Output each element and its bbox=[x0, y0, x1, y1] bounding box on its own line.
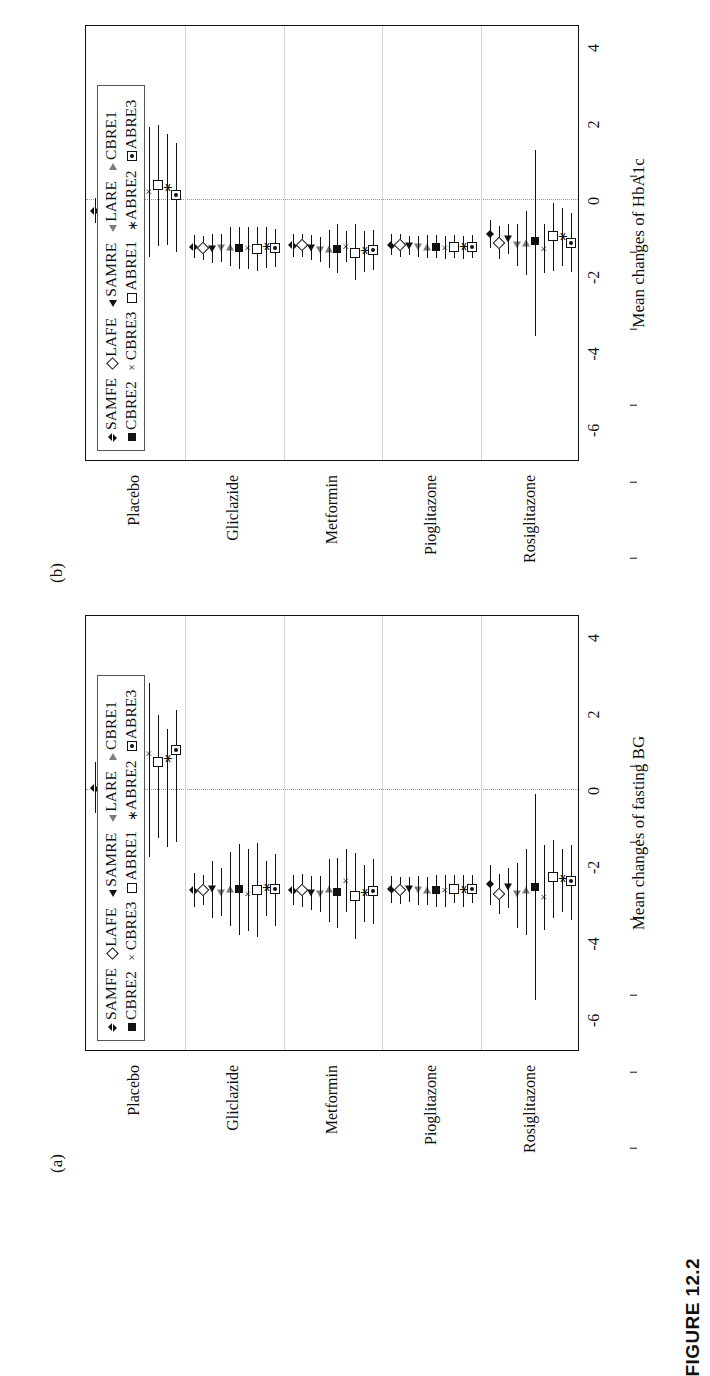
estimate-marker bbox=[208, 886, 216, 893]
axis-tick bbox=[630, 558, 637, 559]
estimate-marker: × bbox=[540, 244, 549, 253]
asterisk-icon: ∗ bbox=[128, 222, 137, 231]
axis-title: Mean changes of fasting BG bbox=[629, 615, 649, 1051]
axis-tick bbox=[630, 481, 637, 482]
value-axis: -6-4-2024 bbox=[585, 615, 607, 1051]
estimate-marker bbox=[396, 886, 405, 895]
estimate-marker bbox=[198, 243, 207, 252]
open-triangle-left-icon bbox=[316, 890, 324, 897]
estimate-marker bbox=[566, 876, 576, 886]
panel-b: (b)×∗×∗×∗×∗×∗SAMFELAFESAMRELARECBRE1CBRE… bbox=[45, 0, 665, 589]
legend-marker: ∗ bbox=[122, 220, 140, 234]
legend-label: SAMRE bbox=[102, 243, 120, 297]
category-label: Pioglitazone bbox=[422, 475, 440, 589]
open-triangle-right-icon bbox=[423, 887, 431, 894]
estimate-marker bbox=[414, 887, 422, 894]
filled-diamond-icon bbox=[383, 885, 391, 893]
legend-label: LAFE bbox=[102, 318, 120, 357]
estimate-marker bbox=[423, 887, 431, 894]
square-dot-icon bbox=[270, 243, 280, 253]
confidence-interval-whisker bbox=[176, 710, 177, 842]
category-label: Metformin bbox=[323, 475, 341, 589]
open-triangle-left-icon bbox=[414, 243, 422, 250]
axis-tick-label: 0 bbox=[585, 787, 603, 795]
value-axis: -6-4-2024 bbox=[585, 25, 607, 461]
estimate-marker bbox=[414, 243, 422, 250]
open-triangle-left-icon bbox=[109, 815, 117, 822]
open-triangle-right-icon bbox=[226, 885, 234, 892]
estimate-marker bbox=[325, 886, 333, 893]
open-triangle-right-icon bbox=[423, 243, 431, 250]
square-dot-icon bbox=[127, 151, 137, 161]
category-label: Placebo bbox=[125, 1065, 143, 1179]
legend-row: CBRE2×CBRE3ABRE1∗ABRE2ABRE3 bbox=[121, 93, 141, 444]
legend-marker bbox=[102, 1020, 120, 1034]
axis-tick-label: -2 bbox=[585, 861, 603, 874]
estimate-marker bbox=[467, 884, 477, 894]
filled-triangle-left-icon bbox=[109, 300, 117, 307]
estimate-marker bbox=[495, 889, 504, 898]
legend: SAMFELAFESAMRELARECBRE1CBRE2×CBRE3ABRE1∗… bbox=[97, 675, 145, 1041]
legend-label: ABRE3 bbox=[122, 100, 140, 150]
filled-diamond-icon bbox=[284, 886, 292, 894]
estimate-marker bbox=[171, 745, 181, 755]
figure-caption: FIGURE 12.2 bbox=[682, 1258, 704, 1376]
legend-marker bbox=[102, 887, 120, 901]
axis-tick-label: 2 bbox=[585, 120, 603, 128]
filled-diamond-icon bbox=[284, 241, 292, 249]
axis-tick bbox=[630, 1071, 637, 1072]
axis-tick-label: 0 bbox=[585, 197, 603, 205]
estimate-marker: × bbox=[342, 876, 351, 885]
asterisk-icon: ∗ bbox=[128, 812, 137, 821]
estimate-marker bbox=[198, 886, 207, 895]
legend-label: CBRE3 bbox=[122, 902, 140, 951]
legend-label: ABRE2 bbox=[122, 170, 140, 220]
estimate-marker bbox=[513, 242, 521, 249]
filled-diamond-icon bbox=[86, 784, 94, 792]
legend-row: CBRE2×CBRE3ABRE1∗ABRE2ABRE3 bbox=[121, 683, 141, 1034]
legend-marker bbox=[102, 750, 120, 764]
legend-label: CBRE3 bbox=[122, 312, 140, 361]
open-triangle-right-icon bbox=[522, 239, 530, 246]
category-label: Pioglitazone bbox=[422, 1065, 440, 1179]
filled-diamond-icon bbox=[383, 241, 391, 249]
panel-tag: (b) bbox=[47, 563, 67, 583]
legend-label: ABRE1 bbox=[122, 241, 140, 291]
filled-triangle-left-icon bbox=[504, 235, 512, 242]
estimate-marker bbox=[307, 890, 315, 897]
legend-label: SAMRE bbox=[102, 833, 120, 887]
category-separator bbox=[481, 616, 482, 1050]
category-axis: PlaceboGliclazideMetforminPioglitazoneRo… bbox=[85, 461, 579, 589]
open-triangle-right-icon bbox=[325, 245, 333, 252]
estimate-marker bbox=[566, 238, 576, 248]
legend-marker bbox=[102, 430, 120, 444]
filled-triangle-left-icon bbox=[109, 890, 117, 897]
open-triangle-left-icon bbox=[316, 246, 324, 253]
open-triangle-right-icon bbox=[226, 243, 234, 250]
estimate-marker bbox=[217, 890, 225, 897]
legend-marker bbox=[102, 947, 120, 961]
square-dot-icon bbox=[127, 741, 137, 751]
times-icon: × bbox=[128, 953, 137, 962]
estimate-marker bbox=[171, 190, 181, 200]
filled-diamond-icon bbox=[482, 230, 490, 238]
estimate-marker bbox=[226, 885, 234, 892]
filled-triangle-left-icon bbox=[504, 884, 512, 891]
estimate-marker bbox=[531, 883, 539, 891]
zero-reference-line bbox=[86, 199, 578, 200]
category-separator bbox=[185, 616, 186, 1050]
estimate-marker bbox=[513, 890, 521, 897]
legend-marker bbox=[102, 357, 120, 371]
legend-marker bbox=[102, 297, 120, 311]
asterisk-icon: ∗ bbox=[162, 755, 171, 764]
axis-tick bbox=[630, 1148, 637, 1149]
legend-label: CBRE2 bbox=[122, 971, 140, 1020]
estimate-marker bbox=[495, 238, 504, 247]
filled-square-icon bbox=[531, 883, 539, 891]
legend-marker: × bbox=[122, 360, 140, 374]
times-icon: × bbox=[342, 876, 351, 885]
panel-tag: (a) bbox=[47, 1154, 67, 1173]
estimate-marker bbox=[297, 886, 306, 895]
estimate-marker bbox=[217, 244, 225, 251]
legend-row: SAMFELAFESAMRELARECBRE1 bbox=[101, 93, 121, 444]
